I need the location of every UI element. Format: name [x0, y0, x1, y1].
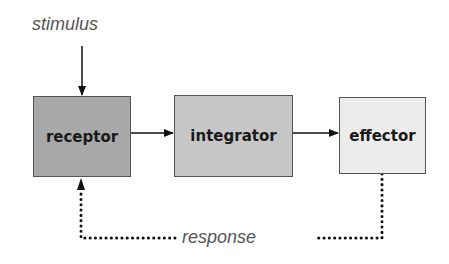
response-arrowhead [77, 178, 85, 190]
response-label: response [182, 227, 256, 248]
receptor-node: receptor [33, 96, 131, 177]
effector-node: effector [339, 97, 426, 174]
stimulus-label: stimulus [32, 14, 98, 35]
integrator-node: integrator [174, 95, 293, 177]
